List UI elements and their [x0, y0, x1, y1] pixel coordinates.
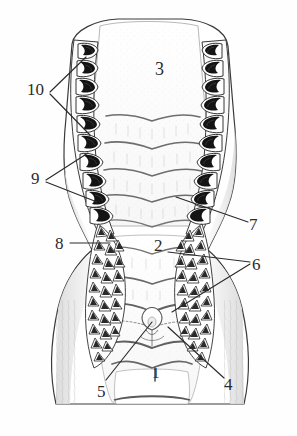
- callout-7: 7: [249, 216, 258, 233]
- callout-4: 4: [224, 376, 233, 393]
- anatomical-figure: 1 2 3 4 5 6 7 8 9 10: [0, 0, 297, 436]
- callout-8: 8: [55, 235, 64, 252]
- callout-5: 5: [97, 383, 106, 400]
- callout-1: 1: [152, 366, 160, 381]
- callout-9: 9: [31, 170, 40, 187]
- callout-6: 6: [252, 256, 261, 273]
- callout-10: 10: [27, 81, 44, 98]
- callout-3: 3: [155, 60, 164, 78]
- callout-2: 2: [154, 237, 163, 254]
